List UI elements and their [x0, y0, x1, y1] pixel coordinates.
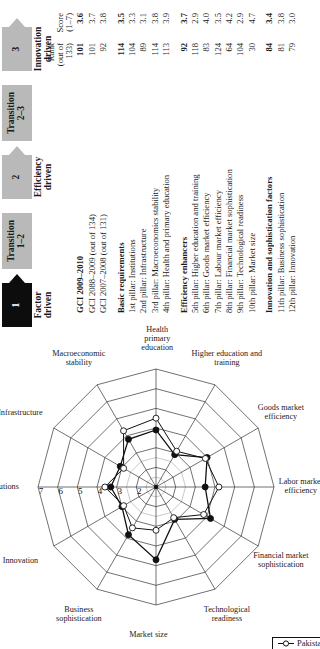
- radar-tick-label: 6: [58, 486, 63, 496]
- table-header: Rank(out of 133) Score(1–7): [52, 13, 74, 313]
- table-cell-rank: 92: [179, 43, 189, 77]
- radar-data-point: [153, 527, 159, 533]
- radar-svg: 234567: [6, 331, 306, 643]
- radar-tick-label: 5: [78, 486, 83, 496]
- stage-arrow-icon: [9, 146, 25, 155]
- stage-box-label: Transition2–3: [7, 92, 27, 134]
- radar-data-point: [121, 503, 127, 509]
- table-cell-score: 3.1: [138, 13, 148, 43]
- table-cell-rank: 114: [116, 43, 126, 77]
- radar-axis-label: Innovation: [0, 557, 57, 566]
- table-cell-label: 9th pillar: Technological readiness: [235, 77, 245, 313]
- table-cell-rank: 114: [150, 43, 160, 77]
- stage-box-2: 2: [2, 155, 32, 199]
- table-cell-rank: 113: [161, 43, 171, 77]
- stage-box-label: 2: [12, 175, 22, 180]
- table-cell-rank: 92: [98, 43, 108, 77]
- table-cell-score: 4.0: [201, 13, 211, 43]
- radar-data-point: [171, 515, 177, 521]
- table-cell-rank: 81: [276, 43, 286, 77]
- table-cell-label: GCI 2088–2009 (out of 134): [87, 77, 97, 313]
- table-cell-score: 3.8: [150, 13, 160, 43]
- chart-legend: PakistanFactor-driven economics: [272, 637, 308, 649]
- rank-score-table: Rank(out of 133) Score(1–7) GCI 2009–201…: [52, 13, 297, 313]
- table-row: 3rd pillar: Macroeconomics stability1143…: [148, 13, 159, 313]
- radar-data-point: [121, 428, 127, 434]
- table-row: GCI 2088–2009 (out of 134)1013.7: [85, 13, 96, 313]
- table-cell-score: 3.7: [87, 13, 97, 43]
- radar-axis-spoke: [156, 487, 215, 589]
- radar-axis-spoke: [54, 428, 156, 487]
- stage-box-label: 3: [12, 47, 22, 52]
- table-cell-label: 12th pillar: Innovation: [287, 77, 297, 313]
- table-row: 10th pillar: Market size304.7: [245, 13, 256, 313]
- legend-marker-pakistan: [278, 639, 294, 648]
- radar-axis-label: Businesssophistication: [42, 606, 116, 624]
- table-row: Innovation and sophistication factors843…: [263, 13, 274, 313]
- competitiveness-radar-chart: 234567 InstitutionsInfrastructureMacroec…: [6, 331, 306, 643]
- table-cell-rank: 89: [138, 43, 148, 77]
- table-header-rank: Rank(out of 133): [47, 43, 74, 77]
- radar-axis-label: Higher education andtraining: [190, 350, 264, 368]
- radar-data-point: [216, 484, 222, 490]
- stage-arrow-icon: [9, 18, 25, 27]
- stage-caption-1: Factordriven: [33, 279, 53, 331]
- radar-center-dot: [154, 485, 158, 489]
- table-cell-score: 3.8: [98, 13, 108, 43]
- table-row: GCI 2007–2008 (out of 131)923.8: [97, 13, 108, 313]
- table-cell-score: 3.5: [116, 13, 126, 43]
- table-row: 8th pillar: Financial market sophisticat…: [223, 13, 234, 313]
- table-cell-label: 4th pillar: Health and primary education: [161, 77, 171, 313]
- radar-data-point: [125, 436, 131, 442]
- table-row: 5th pillar: Higher education and trainin…: [189, 13, 200, 313]
- radar-tick-label: 4: [98, 486, 103, 496]
- table-cell-score: 3.7: [179, 13, 189, 43]
- radar-axis-label: Infrastructure: [0, 409, 57, 418]
- radar-axis-spoke: [97, 385, 156, 487]
- radar-axis-label: Financial marketsophistication: [244, 552, 308, 570]
- table-cell-label: 5th pillar: Higher education and trainin…: [190, 77, 200, 313]
- table-cell-rank: 101: [87, 43, 97, 77]
- table-cell-score: 3.5: [213, 13, 223, 43]
- table-row: 6th pillar: Goods market efficiency834.0: [200, 13, 211, 313]
- table-cell-score: 3.3: [127, 13, 137, 43]
- radar-data-point: [201, 512, 207, 518]
- radar-data-point: [129, 525, 135, 531]
- legend-label: Pakistan: [297, 639, 308, 648]
- table-cell-rank: 118: [190, 43, 200, 77]
- table-row: 2nd pillar: Infrastructure893.1: [137, 13, 148, 313]
- table-cell-label: 1st pillar: Institutions: [127, 77, 137, 313]
- report-page: 1FactordrivenTransition1–22Efficiencydri…: [0, 0, 308, 649]
- table-row: 12th pillar: Innovation793.0: [286, 13, 297, 313]
- radar-axis-label: Institutions: [0, 483, 37, 492]
- table-cell-label: 10th pillar: Market size: [247, 77, 257, 313]
- radar-data-point: [153, 427, 159, 433]
- table-cell-rank: 104: [235, 43, 245, 77]
- stage-caption-2: Efficiencydriven: [33, 151, 53, 203]
- table-cell-label: Innovation and sophistication factors: [264, 77, 274, 313]
- table-cell-score: 3.0: [287, 13, 297, 43]
- radar-axis-label: Healthprimaryeducation: [120, 326, 194, 353]
- radar-data-point: [125, 532, 131, 538]
- table-row: Efficiency enhancers923.7: [177, 13, 188, 313]
- radar-tick-label: 3: [117, 486, 122, 496]
- table-cell-score: 4.2: [224, 13, 234, 43]
- stage-box-t12: Transition1–2: [2, 213, 32, 269]
- table-row: GCI 2009–20101013.6: [74, 13, 85, 313]
- stage-of-development-bar: 1FactordrivenTransition1–22Efficiencydri…: [2, 5, 42, 327]
- table-cell-label: 2nd pillar: Infrastructure: [138, 77, 148, 313]
- table-cell-score: 4.7: [247, 13, 257, 43]
- stage-arrow-icon: [9, 274, 25, 283]
- radar-axis-label: Goods marketefficiency: [244, 404, 308, 422]
- table-cell-score: 2.9: [235, 13, 245, 43]
- table-cell-rank: 101: [75, 43, 85, 77]
- table-cell-label: Basic requirements: [116, 77, 126, 313]
- legend-item-1: Pakistan: [278, 639, 308, 648]
- table-row: 7th pillar: Labour market efficiency1243…: [211, 13, 222, 313]
- radar-data-point: [153, 415, 159, 421]
- radar-data-point: [174, 448, 180, 454]
- table-cell-rank: 83: [201, 43, 211, 77]
- table-row: 4th pillar: Health and primary education…: [160, 13, 171, 313]
- stage-box-t23: Transition2–3: [2, 85, 32, 141]
- table-cell-score: 3.4: [264, 13, 274, 43]
